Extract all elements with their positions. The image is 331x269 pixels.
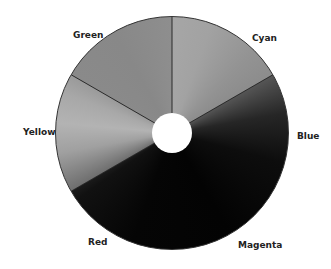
label-yellow: Yellow: [23, 127, 55, 137]
color-wheel: [55, 16, 289, 250]
label-cyan: Cyan: [252, 33, 277, 43]
label-green: Green: [73, 30, 103, 40]
label-red: Red: [88, 237, 107, 247]
label-blue: Blue: [297, 131, 319, 141]
label-magenta: Magenta: [238, 240, 282, 250]
segment-dividers: [55, 16, 289, 250]
center-hole: [152, 113, 192, 153]
